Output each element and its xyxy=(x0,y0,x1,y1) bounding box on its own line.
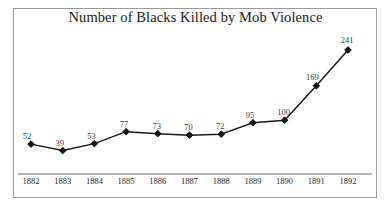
plot-area xyxy=(13,8,377,198)
data-point-marker xyxy=(186,132,193,139)
chart-figure: Number of Blacks Killed by Mob Violence … xyxy=(0,0,391,212)
data-point-marker xyxy=(218,131,225,138)
data-point-marker xyxy=(250,119,257,126)
data-point-marker xyxy=(59,147,66,154)
data-point-marker xyxy=(28,141,35,148)
data-point-marker xyxy=(154,130,161,137)
data-point-marker xyxy=(123,128,130,135)
line-chart-svg xyxy=(13,8,377,198)
data-point-marker xyxy=(91,140,98,147)
